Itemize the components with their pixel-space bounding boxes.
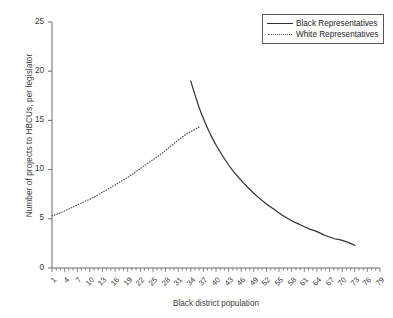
legend-item-black-representatives: Black Representatives xyxy=(267,18,378,29)
solid-line-swatch-icon xyxy=(267,19,293,28)
legend-label: White Representatives xyxy=(296,30,378,39)
y-axis-tick-marks xyxy=(48,22,52,268)
chart-legend: Black Representatives White Representati… xyxy=(262,14,384,44)
data-series-group xyxy=(52,81,355,245)
series-line-white-representatives xyxy=(52,127,199,216)
legend-label: Black Representatives xyxy=(296,19,377,28)
x-axis-tick-marks xyxy=(52,268,380,272)
dotted-line-swatch-icon xyxy=(267,30,293,39)
legend-item-white-representatives: White Representatives xyxy=(267,29,378,40)
series-line-black-representatives xyxy=(191,81,355,245)
plot-canvas xyxy=(0,0,393,318)
chart-figure: Number of projects to HBCUs, per legisla… xyxy=(0,0,393,318)
